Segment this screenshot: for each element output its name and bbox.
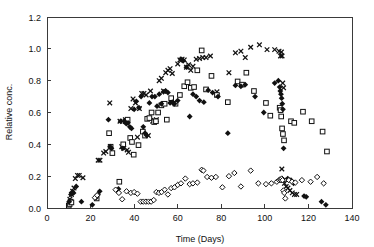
point-marker-square <box>192 85 197 90</box>
plot-border <box>47 17 352 208</box>
point-marker-square <box>195 68 200 73</box>
point-marker-open-diamond <box>308 179 313 184</box>
plot-frame <box>47 17 352 208</box>
y-tick-label: 0.8 <box>28 76 41 86</box>
point-marker-cross <box>280 81 285 86</box>
y-tick-label: 0.0 <box>28 204 41 214</box>
point-marker-cross <box>239 49 244 54</box>
point-marker-open-diamond <box>238 184 243 189</box>
x-axis-title: Time (Days) <box>176 234 225 244</box>
y-tick-label: 1.2 <box>28 13 41 23</box>
point-marker-cross <box>208 54 213 59</box>
point-marker-open-diamond <box>195 180 200 185</box>
point-marker-square <box>268 113 273 118</box>
y-tick-label: 0.2 <box>28 172 41 182</box>
point-marker-open-diamond <box>263 181 268 186</box>
point-marker-cross <box>243 55 248 60</box>
point-marker-cross <box>204 55 209 60</box>
point-marker-open-diamond <box>248 168 253 173</box>
data-series-layer <box>66 43 329 208</box>
point-marker-square <box>279 114 284 119</box>
point-marker-square <box>107 131 112 136</box>
point-marker-square <box>325 149 330 154</box>
point-marker-cross <box>148 89 153 94</box>
point-marker-cross <box>168 66 173 71</box>
y-tick-labels: 0.00.20.40.60.81.01.2 <box>28 13 41 214</box>
point-marker-cross <box>227 70 232 75</box>
point-marker-filled-diamond <box>319 199 325 205</box>
x-tick-label: 0 <box>44 213 49 223</box>
y-tick-label: 0.6 <box>28 108 41 118</box>
x-tick-label: 120 <box>301 213 316 223</box>
point-marker-open-diamond <box>232 170 237 175</box>
point-marker-open-diamond <box>321 181 326 186</box>
point-marker-square <box>244 70 249 75</box>
scatter-plot: 020406080100120140 0.00.20.40.60.81.01.2… <box>0 0 374 247</box>
point-marker-square <box>209 74 214 79</box>
point-marker-square <box>178 93 183 98</box>
point-marker-square <box>149 110 154 115</box>
point-marker-square <box>282 138 287 143</box>
point-marker-filled-diamond <box>79 199 85 205</box>
point-marker-cross <box>248 45 253 50</box>
point-marker-cross <box>265 47 270 52</box>
point-marker-square <box>320 129 325 134</box>
point-marker-cross <box>107 101 112 106</box>
point-marker-cross <box>170 71 175 76</box>
x-tick-label: 100 <box>257 213 272 223</box>
point-marker-open-diamond <box>119 197 124 202</box>
point-marker-square <box>292 121 297 126</box>
point-marker-filled-diamond <box>106 117 112 123</box>
x-tick-label: 60 <box>173 213 183 223</box>
point-marker-square <box>130 140 135 145</box>
point-marker-square <box>147 116 152 121</box>
point-marker-square <box>136 143 141 148</box>
point-marker-cross <box>233 51 238 56</box>
point-marker-square <box>226 100 231 105</box>
x-tick-label: 140 <box>344 213 359 223</box>
axis-ticks <box>47 17 352 208</box>
point-marker-filled-diamond <box>225 130 231 136</box>
point-marker-filled-diamond <box>281 145 287 151</box>
point-marker-filled-diamond <box>279 95 285 101</box>
point-marker-open-diamond <box>220 185 225 190</box>
point-marker-square <box>110 151 115 156</box>
point-marker-square <box>156 110 161 115</box>
x-tick-label: 80 <box>216 213 226 223</box>
point-marker-cross <box>104 149 109 154</box>
series-open-diamond <box>92 167 326 204</box>
point-marker-open-diamond <box>269 181 274 186</box>
chart-page: 020406080100120140 0.00.20.40.60.81.01.2… <box>0 0 374 247</box>
x-tick-label: 20 <box>86 213 96 223</box>
point-marker-square <box>301 109 306 114</box>
point-marker-square <box>199 48 204 53</box>
point-marker-square <box>252 89 257 94</box>
point-marker-open-diamond <box>256 181 261 186</box>
point-marker-open-diamond <box>165 192 170 197</box>
point-marker-cross <box>280 167 285 172</box>
point-marker-cross <box>281 86 286 91</box>
point-marker-square <box>131 152 136 157</box>
point-marker-square <box>264 101 269 106</box>
point-marker-cross <box>159 76 164 81</box>
point-marker-square <box>309 119 314 124</box>
y-axis-title: Relative conc. <box>4 84 14 141</box>
point-marker-cross <box>135 135 140 140</box>
point-marker-open-diamond <box>226 173 231 178</box>
point-marker-open-diamond <box>314 174 319 179</box>
point-marker-filled-diamond <box>261 110 267 116</box>
point-marker-open-diamond <box>299 177 304 182</box>
x-tick-label: 40 <box>129 213 139 223</box>
point-marker-square <box>154 119 159 124</box>
y-tick-label: 1.0 <box>28 44 41 54</box>
point-marker-open-diamond <box>183 176 188 181</box>
point-marker-square <box>117 179 122 184</box>
point-marker-cross <box>257 43 262 48</box>
point-marker-square <box>281 132 286 137</box>
point-marker-filled-diamond <box>323 202 329 208</box>
point-marker-square <box>185 80 190 85</box>
point-marker-filled-diamond <box>146 100 152 106</box>
x-tick-labels: 020406080100120140 <box>44 213 359 223</box>
point-marker-cross <box>272 47 277 52</box>
point-marker-filled-diamond <box>187 114 193 120</box>
